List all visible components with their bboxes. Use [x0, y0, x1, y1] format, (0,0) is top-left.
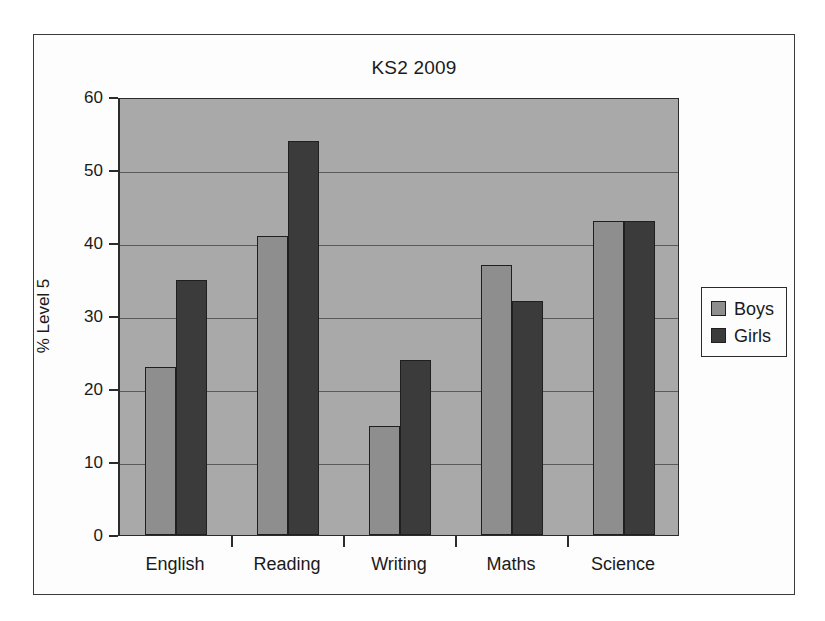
y-tick-mark [109, 316, 118, 318]
y-tick-label: 60 [69, 88, 103, 108]
plot-inner [120, 99, 678, 535]
plot-area [119, 98, 679, 536]
legend-swatch-icon [711, 328, 726, 343]
y-tick-mark [109, 462, 118, 464]
chart-title: KS2 2009 [34, 57, 794, 79]
y-tick-label: 40 [69, 234, 103, 254]
bar [400, 360, 431, 535]
y-tick-label: 20 [69, 380, 103, 400]
x-axis-category-label: Maths [486, 554, 535, 575]
bar [257, 236, 288, 535]
y-tick-label: 10 [69, 453, 103, 473]
y-tick-mark [109, 535, 118, 537]
chart-legend: BoysGirls [701, 287, 787, 357]
y-tick-label: 50 [69, 161, 103, 181]
x-tick-mark [343, 536, 345, 547]
bar [176, 280, 207, 536]
x-tick-mark [567, 536, 569, 547]
x-tick-mark [231, 536, 233, 547]
bar [288, 141, 319, 535]
y-tick-mark [109, 97, 118, 99]
bar [369, 426, 400, 536]
y-tick-mark [109, 170, 118, 172]
legend-label: Girls [734, 327, 771, 345]
bar [593, 221, 624, 535]
x-axis-category-label: Science [591, 554, 655, 575]
legend-item: Boys [711, 295, 774, 322]
gridline [120, 172, 678, 173]
y-tick-label: 30 [69, 307, 103, 327]
chart-page-frame: KS2 2009 % Level 5 0102030405060 English… [33, 34, 795, 595]
y-tick-mark [109, 389, 118, 391]
bar [481, 265, 512, 535]
legend-item: Girls [711, 322, 774, 349]
x-axis-category-label: Writing [371, 554, 427, 575]
bar [512, 301, 543, 535]
legend-label: Boys [734, 300, 774, 318]
x-axis-category-label: Reading [253, 554, 320, 575]
x-axis-category-label: English [145, 554, 204, 575]
legend-swatch-icon [711, 301, 726, 316]
x-tick-mark [455, 536, 457, 547]
y-tick-mark [109, 243, 118, 245]
y-tick-label: 0 [69, 526, 103, 546]
y-axis-title: % Level 5 [34, 236, 54, 396]
bar [624, 221, 655, 535]
bar [145, 367, 176, 535]
